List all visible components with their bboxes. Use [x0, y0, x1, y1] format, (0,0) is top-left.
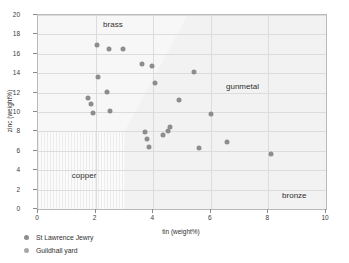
data-point	[168, 124, 173, 129]
data-point	[95, 43, 100, 48]
y-axis-title: zinc (weight%)	[6, 90, 13, 132]
gridline-horizontal	[38, 93, 326, 94]
gridline-vertical	[153, 15, 154, 209]
y-tick-label: 10	[13, 108, 20, 115]
gridline-horizontal	[38, 34, 326, 35]
legend-item-s-guild[interactable]: Guildhall yard	[24, 244, 93, 257]
legend-label: St Lawrence Jewry	[36, 234, 93, 241]
y-tick-label: 6	[16, 146, 20, 153]
data-point	[89, 102, 94, 107]
data-point	[152, 80, 157, 85]
data-point	[165, 129, 170, 134]
y-tick-label: 12	[13, 88, 20, 95]
x-tick-mark	[325, 209, 326, 213]
data-point	[197, 146, 202, 151]
y-tick-label: 18	[13, 30, 20, 37]
data-point	[139, 61, 144, 66]
y-tick-label: 8	[16, 127, 20, 134]
region-label-bronze: bronze	[282, 190, 306, 199]
data-point	[142, 129, 147, 134]
x-tick-label: 4	[150, 214, 154, 221]
data-point	[146, 145, 151, 150]
region-label-copper: copper	[72, 171, 96, 180]
data-point	[177, 98, 182, 103]
data-point	[120, 47, 125, 52]
y-tick-mark	[33, 33, 37, 34]
data-point	[108, 108, 113, 113]
gridline-horizontal	[38, 15, 326, 16]
y-tick-label: 4	[16, 166, 20, 173]
y-tick-label: 0	[16, 205, 20, 212]
y-tick-mark	[33, 150, 37, 151]
gridline-horizontal	[38, 151, 326, 152]
legend: St Lawrence JewryGuildhall yard	[24, 231, 93, 257]
x-tick-mark	[37, 209, 38, 213]
y-tick-mark	[33, 111, 37, 112]
data-point	[96, 75, 101, 80]
gridline-horizontal	[38, 131, 326, 132]
data-point	[90, 111, 95, 116]
x-tick-label: 10	[321, 214, 328, 221]
data-point	[105, 89, 110, 94]
region-label-brass: brass	[103, 19, 123, 28]
data-point	[161, 133, 166, 138]
data-point	[224, 140, 229, 145]
y-tick-label: 14	[13, 69, 20, 76]
x-tick-mark	[210, 209, 211, 213]
data-point	[106, 46, 111, 51]
x-axis-title: tin (weight%)	[162, 228, 200, 235]
legend-item-s-jewry[interactable]: St Lawrence Jewry	[24, 231, 93, 244]
legend-label: Guildhall yard	[36, 247, 78, 254]
data-point	[208, 112, 213, 117]
y-tick-mark	[33, 130, 37, 131]
gridline-vertical	[268, 15, 269, 209]
legend-marker-icon	[24, 248, 29, 253]
legend-marker-icon	[24, 235, 29, 240]
y-tick-mark	[33, 72, 37, 73]
x-tick-mark	[95, 209, 96, 213]
region-label-gunmetal: gunmetal	[226, 81, 259, 90]
x-tick-mark	[152, 209, 153, 213]
data-point	[191, 70, 196, 75]
gridline-horizontal	[38, 73, 326, 74]
y-tick-label: 16	[13, 49, 20, 56]
data-point	[145, 136, 150, 141]
y-tick-label: 2	[16, 185, 20, 192]
plot-area: brassgunmetalcopperbronze	[37, 14, 327, 210]
y-tick-label: 20	[13, 11, 20, 18]
data-point	[269, 152, 274, 157]
x-tick-label: 0	[35, 214, 39, 221]
gridline-horizontal	[38, 54, 326, 55]
x-tick-label: 2	[93, 214, 97, 221]
x-tick-label: 6	[208, 214, 212, 221]
y-tick-mark	[33, 92, 37, 93]
scatter-chart: brassgunmetalcopperbronze 02468101214161…	[0, 0, 349, 263]
x-tick-label: 8	[266, 214, 270, 221]
y-tick-mark	[33, 169, 37, 170]
y-tick-mark	[33, 53, 37, 54]
data-point	[86, 95, 91, 100]
y-tick-mark	[33, 14, 37, 15]
y-tick-mark	[33, 189, 37, 190]
x-tick-mark	[267, 209, 268, 213]
gridline-horizontal	[38, 112, 326, 113]
data-point	[149, 63, 154, 68]
